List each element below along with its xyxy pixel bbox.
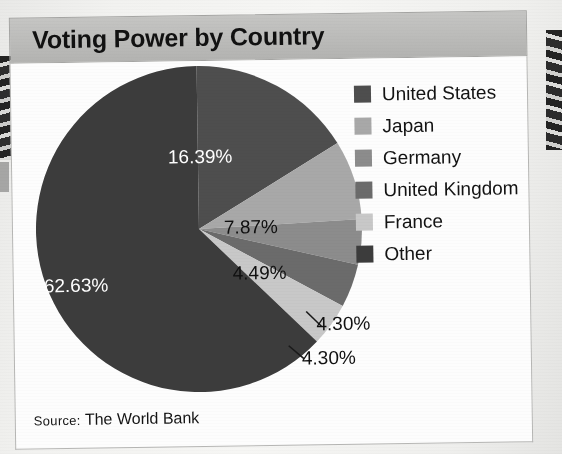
pie-label-united-kingdom: 4.30% [316, 313, 370, 336]
legend-item-label: France [384, 211, 443, 231]
legend-swatch-icon [354, 117, 371, 134]
pie-label-other: 62.63% [44, 274, 109, 297]
legend-item: Japan [354, 107, 529, 142]
legend-swatch-icon [354, 85, 371, 102]
chart-source: Source: The World Bank [34, 409, 200, 429]
page-binding-artifact-right [546, 30, 562, 150]
legend-item-label: Germany [383, 147, 461, 167]
legend-item: France [356, 203, 531, 238]
legend-item-label: United Kingdom [383, 178, 518, 199]
pie-label-france: 4.30% [302, 347, 356, 370]
legend-item-label: United States [382, 82, 496, 103]
chart-panel: 62.63% 16.39% 7.87% 4.49% 4.30% 4.30% Un… [10, 56, 534, 450]
pie-label-germany: 4.49% [232, 262, 286, 285]
chart-title-bar: Voting Power by Country [9, 10, 528, 64]
legend-item: Germany [355, 139, 530, 174]
page-binding-artifact-left-lower [0, 162, 9, 192]
legend-item: Other [356, 235, 531, 270]
pie-slice-group [34, 64, 365, 395]
pie-chart: 62.63% 16.39% 7.87% 4.49% 4.30% 4.30% [11, 58, 386, 403]
pie-label-united-states: 16.39% [168, 146, 233, 169]
chart-legend: United StatesJapanGermanyUnited KingdomF… [354, 75, 532, 270]
source-value: The World Bank [81, 409, 200, 428]
chart-figure: Voting Power by Country 62.63% 16.39% 7.… [9, 10, 533, 450]
source-prefix: Source: [34, 413, 81, 429]
legend-item-label: Other [384, 243, 432, 263]
legend-swatch-icon [356, 245, 373, 262]
legend-item: United States [354, 75, 529, 110]
legend-swatch-icon [356, 213, 373, 230]
chart-title: Voting Power by Country [32, 21, 325, 54]
legend-swatch-icon [355, 149, 372, 166]
legend-swatch-icon [355, 181, 372, 198]
pie-label-japan: 7.87% [224, 216, 278, 239]
legend-item-label: Japan [382, 115, 434, 135]
legend-item: United Kingdom [355, 171, 530, 206]
